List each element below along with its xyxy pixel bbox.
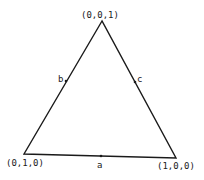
point-c-marker [134, 81, 137, 84]
vertex-label-top: (0,0,1) [81, 10, 119, 20]
point-label-a: a [97, 160, 102, 170]
simplex-triangle [24, 21, 176, 158]
point-a-marker [100, 155, 103, 158]
vertex-label-bottom-right: (1,0,0) [157, 161, 195, 171]
triangle-diagram: (0,0,1) (0,1,0) (1,0,0) a b c [0, 0, 204, 180]
point-label-c: c [137, 74, 142, 84]
point-label-b: b [58, 74, 63, 84]
point-b-marker [65, 80, 68, 83]
vertex-label-bottom-left: (0,1,0) [6, 158, 44, 168]
